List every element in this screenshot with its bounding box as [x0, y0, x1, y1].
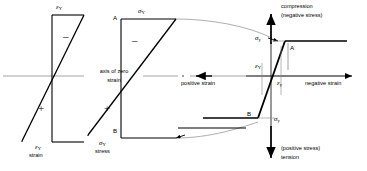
graph-sigma-upper: σy: [255, 34, 261, 42]
strain-bottom-caption: strain: [29, 152, 43, 158]
graph-point-a-label: A: [290, 44, 294, 51]
axis-label-compression-line1: compression: [281, 3, 313, 9]
strain-block-geometry: [22, 15, 84, 142]
stress-sign-negative: –: [132, 34, 138, 47]
graph-sigma-lower: σy: [274, 115, 280, 123]
stress-bottom-caption: stress: [95, 148, 110, 154]
stress-sign-positive: +: [104, 102, 110, 115]
stress-point-a-label: A: [113, 14, 117, 21]
connector-lines: [176, 19, 278, 138]
axis-label-compression-line2: (negative stress): [281, 12, 322, 18]
positive-strain-arrow: [182, 75, 212, 76]
axis-label-tension-line1: (positive stress): [281, 145, 320, 151]
stress-bottom-label: σY: [99, 139, 106, 147]
axis-label-tension-line2: tension: [281, 154, 299, 160]
graph-point-b-label: B: [247, 110, 251, 117]
strain-top-label: εY: [56, 3, 62, 11]
axis-label-negative-strain: negative strain: [305, 80, 341, 86]
zero-axis-note-line1: axis of zero: [86, 68, 142, 74]
zero-axis-note-line2: strain: [86, 77, 142, 83]
graph-tick-epsilon-left: εY: [255, 62, 261, 70]
stress-top-label: σY: [138, 7, 145, 15]
stress-point-b-label: B: [113, 127, 117, 134]
strain-bottom-label: εY: [35, 143, 41, 151]
figure-root: εY – + εY strain axis of zero strain σY …: [0, 0, 367, 171]
strain-sign-negative: –: [63, 30, 69, 43]
graph-tick-epsilon-right: εy: [277, 79, 282, 87]
axis-label-positive-strain: positive strain: [181, 80, 215, 86]
strain-sign-positive: +: [38, 102, 44, 115]
